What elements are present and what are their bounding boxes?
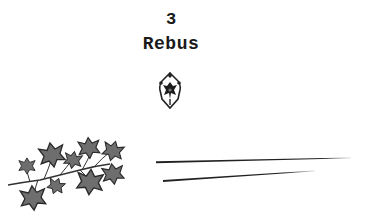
rule-line-2 xyxy=(163,171,315,182)
rule-line-1 xyxy=(156,158,351,164)
ivy-branch-icon xyxy=(0,130,140,219)
chapter-title: Rebus xyxy=(0,33,342,55)
fleuron-ornament-icon xyxy=(158,72,182,110)
chapter-number: 3 xyxy=(0,10,342,30)
decorative-rule-lines xyxy=(150,150,389,190)
